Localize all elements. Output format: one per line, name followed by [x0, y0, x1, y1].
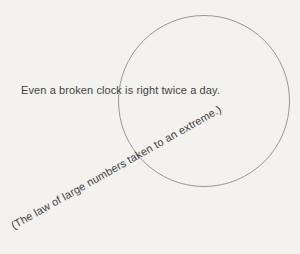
circle-outline: [118, 15, 290, 187]
caption-text: Even a broken clock is right twice a day…: [21, 84, 220, 97]
comic-panel: Even a broken clock is right twice a day…: [0, 0, 300, 254]
